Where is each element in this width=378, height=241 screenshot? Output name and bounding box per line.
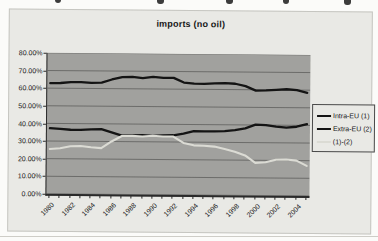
y-tick-mark <box>43 123 46 124</box>
y-tick-label: 60.00% <box>9 84 42 91</box>
x-tick-mark <box>172 196 173 199</box>
x-tick-mark <box>244 196 245 199</box>
gridline <box>47 141 310 143</box>
x-tick-mark <box>120 195 121 198</box>
gridline <box>48 53 311 55</box>
scan-artifact <box>226 0 233 4</box>
legend-item: Intra-EU (1) <box>317 109 371 122</box>
y-tick-label: 40.00% <box>9 120 42 127</box>
x-tick-label: 1990 <box>142 202 158 218</box>
gridline <box>47 71 310 73</box>
y-tick-label: 70.00% <box>9 67 42 74</box>
gridline <box>46 194 309 196</box>
x-tick-mark <box>254 197 255 200</box>
x-tick-mark <box>90 195 91 198</box>
y-tick-label: 0.00% <box>8 190 41 197</box>
x-tick-mark <box>100 195 101 198</box>
x-tick-mark <box>182 196 183 199</box>
y-tick-mark <box>43 141 46 142</box>
x-tick-label: 1996 <box>204 202 220 218</box>
x-tick-label: 1994 <box>183 202 199 218</box>
chart-legend: Intra-EU (1)Extra-EU (2)(1)-(2) <box>312 104 375 152</box>
gridline <box>47 176 310 178</box>
x-tick-label: 1988 <box>122 202 138 218</box>
legend-item: (1)-(2) <box>317 135 371 148</box>
y-tick-mark <box>44 53 47 54</box>
x-tick-mark <box>69 195 70 198</box>
x-tick-mark <box>151 196 152 199</box>
x-tick-label: 1998 <box>224 202 240 218</box>
legend-line-swatch <box>317 114 331 116</box>
y-tick-mark <box>43 176 46 177</box>
x-tick-mark <box>275 197 276 200</box>
x-tick-mark <box>192 196 193 199</box>
x-tick-mark <box>264 197 265 200</box>
y-tick-mark <box>43 159 46 160</box>
x-tick-mark <box>110 195 111 198</box>
x-tick-mark <box>141 196 142 199</box>
x-tick-mark <box>295 197 296 200</box>
y-tick-label: 50.00% <box>9 102 42 109</box>
scan-artifact <box>55 0 61 3</box>
x-tick-label: 2000 <box>245 203 261 219</box>
y-axis-labels: 80.00%70.00%60.00%50.00%40.00%30.00%20.0… <box>10 10 372 13</box>
x-tick-mark <box>48 195 49 198</box>
y-tick-label: 20.00% <box>9 155 42 162</box>
y-tick-mark <box>42 194 45 195</box>
x-tick-label: 1986 <box>101 201 117 217</box>
page-rule-line <box>0 236 378 237</box>
legend-label: Intra-EU (1) <box>333 112 370 119</box>
x-tick-mark <box>213 196 214 199</box>
scan-artifact <box>157 0 164 4</box>
y-tick-mark <box>43 88 46 89</box>
x-tick-label: 2002 <box>265 203 281 219</box>
x-tick-mark <box>131 196 132 199</box>
y-tick-mark <box>43 106 46 107</box>
x-tick-mark <box>285 197 286 200</box>
x-tick-mark <box>305 197 306 200</box>
x-tick-mark <box>223 196 224 199</box>
scan-artifact <box>344 0 351 5</box>
x-axis-labels: 1980198219841986198819901992199419961998… <box>10 10 372 13</box>
x-tick-label: 1984 <box>80 201 96 217</box>
legend-label: (1)-(2) <box>333 138 353 145</box>
gridline <box>47 106 310 108</box>
y-tick-label: 30.00% <box>9 137 42 144</box>
chart-container: imports (no oil) 80.00%70.00%60.00%50.00… <box>7 9 373 235</box>
x-tick-label: 1980 <box>39 201 55 217</box>
x-tick-label: 1982 <box>60 201 76 217</box>
x-tick-mark <box>79 195 80 198</box>
legend-item: Extra-EU (2) <box>317 122 371 135</box>
legend-line-swatch <box>317 127 331 129</box>
x-tick-mark <box>203 196 204 199</box>
x-tick-mark <box>161 196 162 199</box>
scan-artifact <box>283 0 289 4</box>
y-tick-label: 10.00% <box>9 172 42 179</box>
x-tick-mark <box>233 196 234 199</box>
series-line-1-2 <box>50 135 307 166</box>
legend-line-swatch <box>317 140 331 142</box>
x-tick-mark <box>59 195 60 198</box>
legend-label: Extra-EU (2) <box>333 125 372 132</box>
scanned-page: { "chart": { "title": "imports (no oil)"… <box>0 0 378 241</box>
series-line-intra-eu-1 <box>50 76 307 93</box>
y-tick-mark <box>43 70 46 71</box>
chart-title: imports (no oil) <box>10 18 372 31</box>
y-tick-label: 80.00% <box>10 49 43 56</box>
plot-svg <box>46 53 310 196</box>
x-tick-label: 1992 <box>163 202 179 218</box>
plot-area <box>45 53 310 198</box>
x-tick-label: 2004 <box>286 203 302 219</box>
